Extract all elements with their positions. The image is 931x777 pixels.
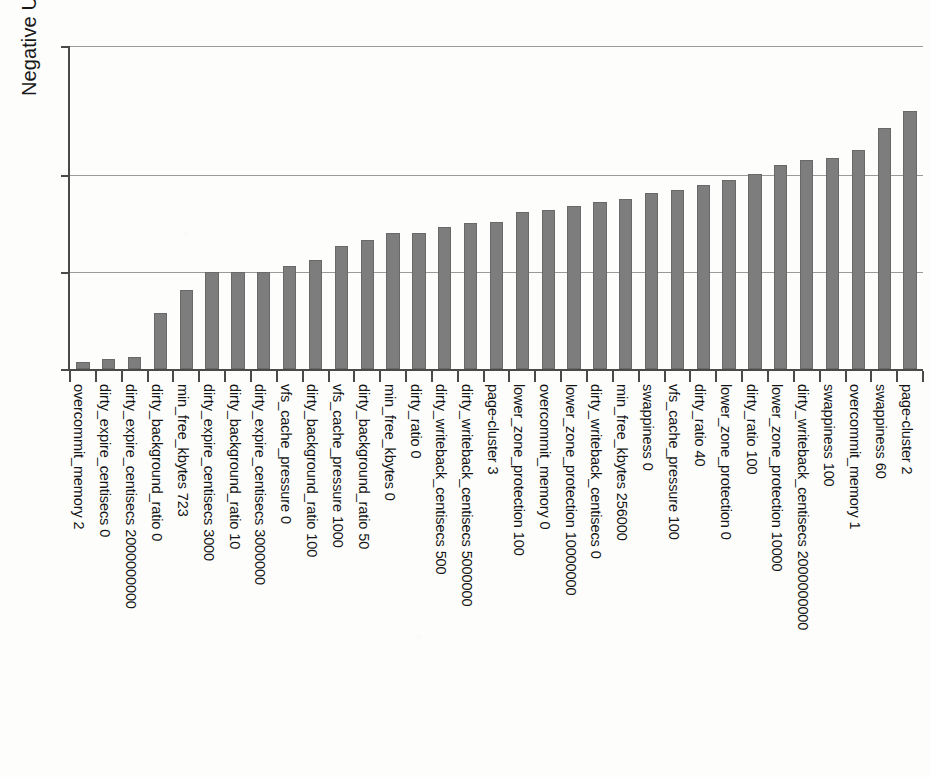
x-axis-label: dirty_ratio 40 xyxy=(692,384,707,466)
x-axis-label: min_free_kbytes 256000 xyxy=(615,384,630,541)
x-axis-tick xyxy=(534,371,536,382)
x-axis-label: vfs_cache_pressure 1000 xyxy=(330,384,345,548)
x-axis-tick xyxy=(353,371,355,382)
x-axis-tick xyxy=(379,371,381,382)
x-axis-tick xyxy=(483,371,485,382)
x-axis-tick xyxy=(741,371,743,382)
chart-figure: Negative Undefined Positive overcommit_m… xyxy=(0,0,931,777)
bar xyxy=(438,227,451,369)
x-axis-label: lower_zone_protection 10000 xyxy=(770,384,785,572)
x-axis-label: lower_zone_protection 100 xyxy=(511,384,526,556)
bar xyxy=(593,202,606,369)
x-axis-tick xyxy=(896,371,898,382)
x-axis-tick xyxy=(328,371,330,382)
x-axis-label: dirty_expire_centisecs 3000 xyxy=(201,384,216,561)
bar xyxy=(619,199,632,370)
x-axis-label: dirty_ratio 0 xyxy=(408,384,423,458)
x-axis-label: dirty_expire_centisecs 3000000 xyxy=(253,384,268,585)
x-axis-tick xyxy=(560,371,562,382)
x-axis-label: dirty_expire_centisecs 2000000000 xyxy=(124,384,139,609)
y-axis-tick xyxy=(61,46,70,48)
bar xyxy=(283,266,296,369)
x-axis-label: vfs_cache_pressure 100 xyxy=(666,384,681,540)
bar xyxy=(671,190,684,369)
x-axis-label: swappiness 60 xyxy=(873,384,888,479)
x-axis-tick xyxy=(405,371,407,382)
x-axis-label: vfs_cache_pressure 0 xyxy=(279,384,294,524)
x-axis-label: dirty_writeback_centisecs 500 xyxy=(434,384,449,575)
x-axis-tick xyxy=(276,371,278,382)
x-axis-tick xyxy=(121,371,123,382)
bar xyxy=(361,240,374,369)
x-axis-label: overcommit_memory 0 xyxy=(537,384,552,530)
bar xyxy=(128,357,141,369)
x-axis-tick xyxy=(586,371,588,382)
bar xyxy=(826,158,839,369)
x-axis-tick xyxy=(767,371,769,382)
bar xyxy=(180,290,193,369)
x-axis-tick xyxy=(431,371,433,382)
x-axis-tick xyxy=(612,371,614,382)
x-axis-tick xyxy=(638,371,640,382)
bar xyxy=(257,272,270,370)
bar xyxy=(567,206,580,369)
y-axis-title-text: Negative Undefined Positive xyxy=(18,0,41,98)
x-axis-label: dirty_writeback_centisecs 5000000 xyxy=(460,384,475,606)
bar xyxy=(231,272,244,369)
bar xyxy=(490,222,503,369)
x-axis-tick xyxy=(250,371,252,382)
x-axis-ticks xyxy=(68,371,925,383)
x-axis-tick xyxy=(457,371,459,382)
y-axis-tick xyxy=(61,175,70,177)
plot-area xyxy=(68,46,923,371)
x-axis-tick xyxy=(69,371,71,382)
bar xyxy=(852,150,865,369)
x-axis-tick xyxy=(793,371,795,382)
bar xyxy=(748,174,761,369)
x-axis-label: dirty_background_ratio 100 xyxy=(305,384,320,557)
x-axis-label: overcommit_memory 1 xyxy=(847,384,862,530)
x-axis-tick xyxy=(715,371,717,382)
bar xyxy=(335,246,348,369)
x-axis-label: swappiness 100 xyxy=(822,384,837,487)
x-axis-label: dirty_writeback_centisecs 2000000000 xyxy=(796,384,811,630)
y-axis-tick xyxy=(61,272,70,274)
x-axis-tick xyxy=(147,371,149,382)
x-axis-labels: overcommit_memory 2dirty_expire_centisec… xyxy=(68,384,925,724)
x-axis-tick xyxy=(224,371,226,382)
bar xyxy=(800,160,813,369)
bar xyxy=(205,272,218,369)
bar xyxy=(645,193,658,369)
x-axis-label: lower_zone_protection 0 xyxy=(718,384,733,540)
x-axis-tick xyxy=(95,371,97,382)
x-axis-label: dirty_background_ratio 50 xyxy=(356,384,371,549)
bar xyxy=(774,165,787,369)
bar xyxy=(903,111,916,369)
bar xyxy=(154,313,167,370)
x-axis-tick xyxy=(845,371,847,382)
x-axis-tick xyxy=(172,371,174,382)
x-axis-tick xyxy=(664,371,666,382)
x-axis-tick xyxy=(198,371,200,382)
x-axis-tick xyxy=(870,371,872,382)
x-axis-label: page-cluster 3 xyxy=(486,384,501,475)
x-axis-label: dirty_expire_centisecs 0 xyxy=(98,384,113,537)
x-axis-tick xyxy=(302,371,304,382)
x-axis-label: min_free_kbytes 0 xyxy=(382,384,397,501)
x-axis-tick xyxy=(819,371,821,382)
bar xyxy=(878,128,891,369)
bar xyxy=(412,233,425,369)
x-axis-label: swappiness 0 xyxy=(641,384,656,471)
bar xyxy=(309,260,322,369)
x-axis-label: dirty_background_ratio 10 xyxy=(227,384,242,549)
bar xyxy=(697,185,710,369)
bar xyxy=(102,359,115,369)
x-axis-label: overcommit_memory 2 xyxy=(72,384,87,530)
bar xyxy=(386,233,399,369)
x-axis-label: dirty_background_ratio 0 xyxy=(150,384,165,541)
bar-series xyxy=(70,46,923,369)
y-axis-title: Negative Undefined Positive xyxy=(0,0,58,98)
bar xyxy=(464,223,477,369)
bar xyxy=(76,362,89,369)
x-axis-tick xyxy=(689,371,691,382)
